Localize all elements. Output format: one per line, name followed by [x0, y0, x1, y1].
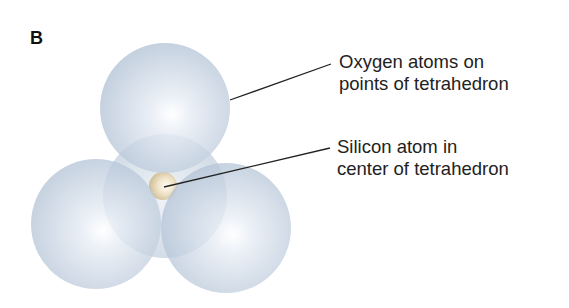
- oxygen-atom-top: [100, 43, 230, 173]
- oxygen-label: Oxygen atoms on points of tetrahedron: [339, 51, 509, 95]
- silicon-label: Silicon atom in center of tetrahedron: [337, 136, 509, 180]
- silicon-label-line1: Silicon atom in: [337, 136, 509, 158]
- silicon-label-line2: center of tetrahedron: [337, 158, 509, 180]
- oxygen-atom-left: [31, 159, 161, 289]
- oxygen-label-line2: points of tetrahedron: [339, 73, 509, 95]
- oxygen-label-line1: Oxygen atoms on: [339, 51, 509, 73]
- oxygen-leader-line: [230, 64, 331, 100]
- panel-letter: B: [30, 28, 43, 49]
